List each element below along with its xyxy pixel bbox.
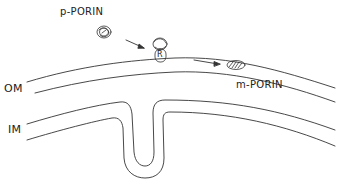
insertion-arrow-icon bbox=[194, 60, 220, 66]
outer-membrane-label: OM bbox=[4, 82, 23, 95]
receptor-label: R bbox=[157, 50, 163, 59]
m-porin-barrel-icon bbox=[227, 61, 245, 70]
diagram-canvas bbox=[0, 0, 340, 185]
outer-membrane-inner-line bbox=[35, 72, 335, 102]
outer-membrane-outer-line bbox=[27, 58, 335, 88]
mitochondrial-import-diagram: p-PORIN R m-PORIN OM IM bbox=[0, 0, 340, 185]
inner-membrane-label: IM bbox=[8, 123, 21, 136]
m-porin-label: m-PORIN bbox=[236, 79, 283, 90]
inner-membrane-outer-line bbox=[27, 100, 335, 166]
inner-membrane-inner-line bbox=[27, 112, 335, 178]
import-arrow-icon bbox=[126, 40, 144, 48]
p-porin-precursor-icon bbox=[97, 26, 111, 38]
p-porin-label: p-PORIN bbox=[60, 6, 103, 17]
